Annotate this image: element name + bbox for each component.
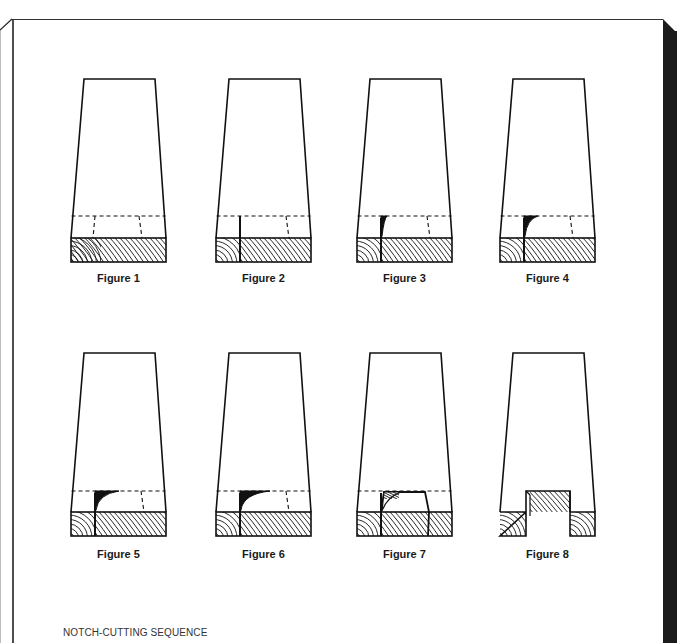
figure-4 [462,79,649,301]
figure-5 [33,353,220,575]
figure-label: Figure 1 [97,272,140,284]
figures-group [23,79,648,575]
figure-label: Figure 4 [526,272,569,284]
frame-shadow-bar [663,19,677,643]
figure-label: Figure 3 [383,272,426,284]
figure-label: Figure 2 [242,272,285,284]
figure-8 [462,353,620,575]
figure-label: Figure 5 [97,548,140,560]
figure-label: Figure 7 [383,548,426,560]
figure-6 [178,353,365,575]
notch-cutting-diagram [0,0,688,643]
figure-2 [178,79,365,301]
figure-1 [23,79,215,301]
figure-7 [319,353,506,575]
diagram-caption: NOTCH-CUTTING SEQUENCE [63,627,207,638]
figure-3 [319,79,506,301]
figure-label: Figure 8 [526,548,569,560]
figure-label: Figure 6 [242,548,285,560]
